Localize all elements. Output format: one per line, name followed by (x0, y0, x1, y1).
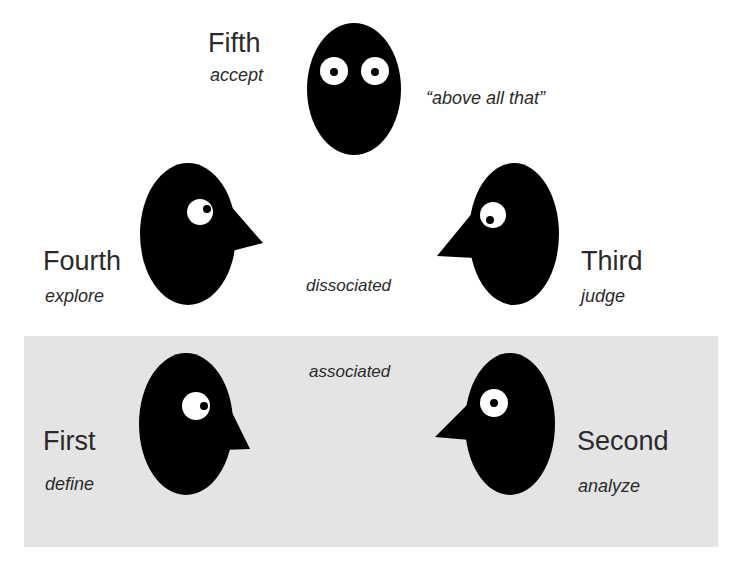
third-position-subtitle: judge (581, 287, 625, 305)
fourth-position-title: Fourth (43, 248, 121, 275)
fifth-position-subtitle: accept (210, 66, 263, 84)
dissociated-zone-label: dissociated (306, 277, 391, 294)
third-position-title: Third (581, 248, 643, 275)
fourth-position-subtitle: explore (45, 287, 104, 305)
second-position-title: Second (577, 428, 669, 455)
fifth-position-head-icon (307, 23, 401, 155)
second-position-subtitle: analyze (578, 477, 640, 495)
third-position-head-icon (437, 163, 559, 305)
associated-zone-label: associated (309, 363, 390, 380)
fifth-position-title: Fifth (208, 30, 261, 57)
first-position-title: First (43, 428, 95, 455)
first-position-subtitle: define (45, 475, 94, 493)
fifth-position-note: “above all that” (426, 89, 545, 107)
fourth-position-head-icon (140, 163, 263, 305)
second-position-head-icon (435, 353, 555, 495)
first-position-head-icon (139, 353, 250, 495)
